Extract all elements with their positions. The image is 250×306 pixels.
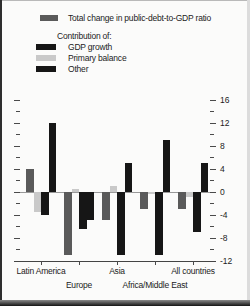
bar-primary-balance-all-countries [186,192,194,198]
y-tick-right [210,146,216,147]
bar-primary-balance-africa-middle-east [148,192,156,195]
image-edge-left [0,0,2,306]
bar-gdp-growth-europe [79,192,87,229]
bar-total-change-in-public-debt-to-gdp-ratio-africa-middle-east [140,192,148,209]
image-edge-bottom [0,300,250,306]
chart-figure: Total change in public-debt-to-GDP ratio… [0,0,250,306]
y-tick-right [210,249,214,250]
y-axis-label: -8 [220,233,228,243]
y-axis-label: -12 [220,256,232,266]
bar-total-change-in-public-debt-to-gdp-ratio-asia [102,192,110,221]
y-tick-right [210,215,216,216]
y-tick-left [16,157,20,158]
y-tick-right [210,111,214,112]
y-axis-label: 16 [220,95,229,105]
y-tick-left [14,215,20,216]
y-tick-right [210,192,216,193]
bar-total-change-in-public-debt-to-gdp-ratio-latin-america [26,169,34,192]
y-tick-left [16,134,20,135]
y-tick-left [14,169,20,170]
y-tick-left [14,192,20,193]
bar-other-asia [125,163,133,192]
y-tick-left [14,238,20,239]
y-tick-left [14,146,20,147]
y-axis-label: -4 [220,210,228,220]
y-tick-left [16,249,20,250]
y-tick-right [210,203,214,204]
y-tick-right [210,123,216,124]
y-axis-label: 12 [220,118,229,128]
y-tick-left [16,226,20,227]
y-axis-label: 8 [220,141,225,151]
image-edge-top [0,0,250,1]
bar-primary-balance-europe [72,189,80,192]
bar-primary-balance-latin-america [34,192,42,212]
y-tick-right [210,157,214,158]
bar-gdp-growth-asia [117,192,125,255]
category-label-europe: Europe [66,280,92,290]
bar-other-europe [87,192,95,221]
y-axis-label: 4 [220,164,225,174]
bar-gdp-growth-all-countries [193,192,201,232]
y-tick-right [210,100,216,101]
y-tick-left [16,180,20,181]
x-tick [117,261,118,265]
image-edge-right [247,0,250,306]
bar-chart-plot: -12-8-40481216Latin AmericaEuropeAsiaAfr… [0,0,250,306]
category-label-all-countries: All countries [171,266,215,276]
y-tick-left [16,203,20,204]
y-tick-left [14,100,20,101]
y-tick-left [16,111,20,112]
y-tick-right [210,134,214,135]
y-tick-right [210,180,214,181]
bar-other-africa-middle-east [163,140,171,192]
bar-other-all-countries [201,163,209,192]
category-label-asia: Asia [109,266,125,276]
x-tick [79,261,80,265]
bar-primary-balance-asia [110,186,118,192]
x-tick [193,261,194,265]
bar-total-change-in-public-debt-to-gdp-ratio-europe [64,192,72,255]
x-tick [155,261,156,265]
y-tick-right [210,169,216,170]
bar-total-change-in-public-debt-to-gdp-ratio-all-countries [178,192,186,209]
y-tick-right [210,238,216,239]
bar-gdp-growth-africa-middle-east [155,192,163,255]
y-axis-label: 0 [220,187,225,197]
y-tick-left [14,123,20,124]
bar-other-latin-america [49,123,57,192]
category-label-latin-america: Latin America [17,266,66,276]
x-tick [41,261,42,265]
category-label-africa-middle-east: Africa/Middle East [123,280,188,290]
x-axis-line [14,261,216,262]
bar-gdp-growth-latin-america [41,192,49,215]
y-tick-right [210,226,214,227]
